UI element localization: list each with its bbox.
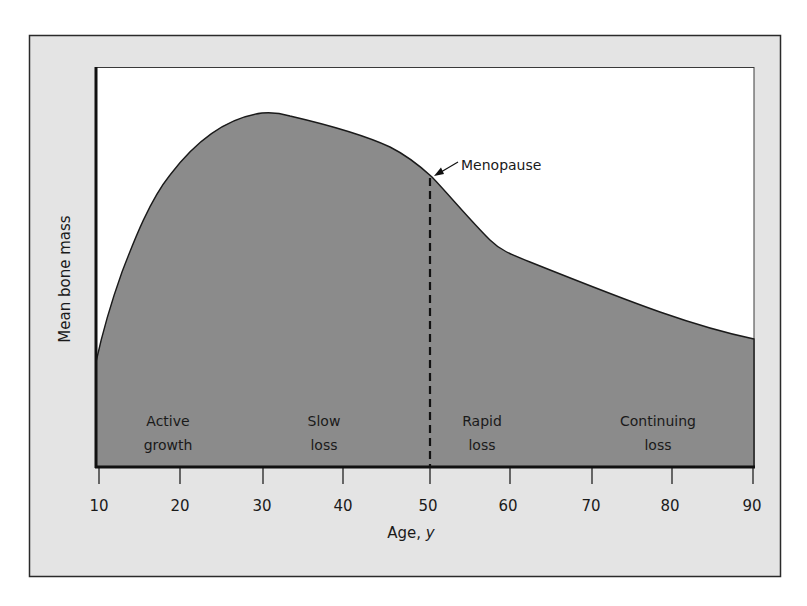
x-tick-label: 40 [333, 497, 352, 515]
x-axis-title-main: Age, [387, 524, 421, 542]
region-label: growth [144, 437, 193, 453]
x-tick-label: 50 [418, 497, 437, 515]
x-tick-label: 70 [581, 497, 600, 515]
region-label: loss [310, 437, 337, 453]
x-tick-label: 80 [660, 497, 679, 515]
y-axis-title: Mean bone mass [56, 215, 74, 342]
region-label: loss [468, 437, 495, 453]
x-tick-label: 30 [252, 497, 271, 515]
x-tick-label: 20 [170, 497, 189, 515]
region-label: loss [644, 437, 671, 453]
bone-mass-chart: Menopause 10 20 30 40 50 60 70 80 90 Age… [0, 0, 807, 606]
x-tick-label: 60 [498, 497, 517, 515]
region-label: Active [146, 413, 189, 429]
x-axis-title: Age, y [387, 524, 436, 542]
region-label: Continuing [620, 413, 696, 429]
x-tick-label: 10 [89, 497, 108, 515]
region-label: Rapid [462, 413, 502, 429]
menopause-label: Menopause [461, 157, 541, 173]
region-label: Slow [308, 413, 341, 429]
x-tick-label: 90 [742, 497, 761, 515]
x-axis-title-unit: y [425, 524, 436, 542]
